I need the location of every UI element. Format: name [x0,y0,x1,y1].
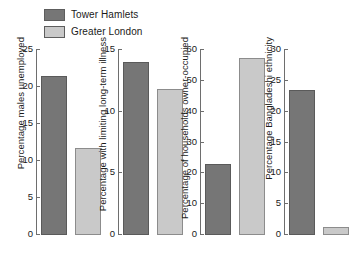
plot-area-males-unemployed: 0510152025 [36,50,98,235]
y-tick-label: 40 [186,106,197,116]
y-axis-label-bangladeshi-ethnicity: Percentage Bangladeshi ethnicity [262,37,275,222]
y-tick-label: 5 [110,167,115,177]
panel-males-unemployed: Percentage males unemployed0510152025 [14,50,98,235]
y-tick-label: 20 [186,167,197,177]
plot-area-limiting-long-term-illness: 051015 [118,50,180,235]
bar-chart-figure: Tower Hamlets Greater London Percentage … [0,0,350,253]
plot-area-households-owner-occupied: 0102030405060 [200,50,262,235]
y-axis-label-limiting-long-term-illness: Percentage with limiting long-term illne… [96,37,109,222]
y-tick-label: 15 [22,118,33,128]
y-tick-label: 10 [22,155,33,165]
y-axis-label-wrap-males-unemployed: Percentage males unemployed [14,50,27,235]
y-tick-label: 5 [276,198,281,208]
y-axis-label-households-owner-occupied: Percentage of households owner-occupied [178,37,191,222]
y-axis-label-males-unemployed: Percentage males unemployed [14,37,27,222]
legend-item-greater-london: Greater London [44,25,142,39]
legend-swatch-greater-london [44,26,65,38]
y-tick-label: 10 [186,198,197,208]
y-tick-label: 10 [104,106,115,116]
bar-bangladeshi-ethnicity-greater-london [323,227,349,235]
y-tick-label: 20 [270,106,281,116]
y-tick-label: 20 [22,81,33,91]
y-tick-label: 0 [276,229,281,239]
y-tick-label: 30 [270,44,281,54]
plot-area-bangladeshi-ethnicity: 051015202530 [284,50,346,235]
bars-limiting-long-term-illness [119,50,180,235]
y-tick-label: 0 [192,229,197,239]
panel-limiting-long-term-illness: Percentage with limiting long-term illne… [96,50,180,235]
y-tick-label: 5 [28,192,33,202]
bar-households-owner-occupied-tower-hamlets [205,164,231,235]
y-tick-label: 25 [270,75,281,85]
bar-bangladeshi-ethnicity-tower-hamlets [289,90,315,235]
y-tick-label: 60 [186,44,197,54]
bars-bangladeshi-ethnicity [285,50,346,235]
legend-label-tower-hamlets: Tower Hamlets [71,9,138,21]
legend-item-tower-hamlets: Tower Hamlets [44,8,142,22]
bar-limiting-long-term-illness-tower-hamlets [123,62,149,235]
y-tick-label: 0 [28,229,33,239]
panel-households-owner-occupied: Percentage of households owner-occupied0… [178,50,262,235]
panel-bangladeshi-ethnicity: Percentage Bangladeshi ethnicity05101520… [262,50,346,235]
bars-males-unemployed [37,50,98,235]
bars-households-owner-occupied [201,50,262,235]
bar-males-unemployed-tower-hamlets [41,76,67,235]
y-tick-label: 15 [104,44,115,54]
y-tick-label: 15 [270,137,281,147]
legend-swatch-tower-hamlets [44,9,65,21]
y-tick-label: 25 [22,44,33,54]
chart-legend: Tower Hamlets Greater London [44,8,142,39]
y-tick-label: 10 [270,167,281,177]
y-tick-label: 30 [186,137,197,147]
y-tick-label: 50 [186,75,197,85]
y-axis-label-wrap-limiting-long-term-illness: Percentage with limiting long-term illne… [96,50,109,235]
y-tick-label: 0 [110,229,115,239]
